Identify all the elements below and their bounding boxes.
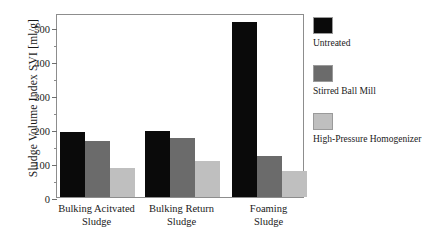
legend-swatch — [313, 17, 333, 34]
x-axis-label-line: Sludge — [209, 216, 329, 229]
bar — [170, 138, 195, 197]
bar — [85, 141, 110, 197]
y-tick-label: 500 — [34, 23, 50, 34]
legend-item: Stirred Ball Mill — [313, 65, 376, 96]
bar — [232, 22, 257, 197]
legend-label: Stirred Ball Mill — [313, 86, 376, 96]
bar — [60, 132, 85, 197]
bar — [145, 131, 170, 197]
plot-area: 0100200300400500 — [56, 14, 304, 198]
bar — [257, 156, 282, 197]
y-tick-label: 300 — [34, 91, 50, 102]
x-axis-label-line: Foaming — [209, 203, 329, 216]
legend-label: Untreated — [313, 38, 350, 48]
legend-item: Untreated — [313, 17, 350, 48]
bar — [282, 171, 307, 197]
y-tick-label: 400 — [34, 57, 50, 68]
legend-swatch — [313, 65, 333, 82]
bars-layer — [57, 15, 303, 197]
bar — [110, 168, 135, 197]
x-axis-group-label: FoamingSludge — [209, 203, 329, 228]
legend-swatch — [313, 113, 333, 130]
y-tick-mark — [52, 199, 57, 200]
legend-item: High-Pressure Homogenizer — [313, 113, 421, 144]
y-tick-label: 100 — [34, 159, 50, 170]
y-tick-label: 200 — [34, 125, 50, 136]
bar — [195, 161, 220, 197]
chart-screenshot: Sludge Volume Index SVI [ml/g] 010020030… — [0, 0, 437, 247]
legend-label: High-Pressure Homogenizer — [313, 134, 421, 144]
